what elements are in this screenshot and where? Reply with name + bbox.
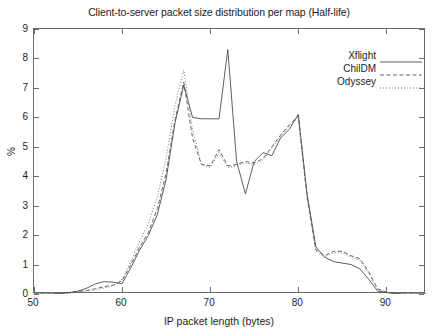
legend-item-xflight[interactable]: Xflight — [314, 49, 422, 62]
y-tick-label: 7 — [8, 81, 28, 92]
x-axis-title: IP packet length (bytes) — [0, 315, 438, 327]
x-tick-label: 60 — [106, 297, 136, 308]
x-tick-mark — [34, 287, 35, 292]
x-tick-mark — [122, 287, 123, 292]
y-tick-mark — [34, 117, 39, 118]
y-tick-mark — [34, 147, 39, 148]
legend-swatch-dotted — [380, 78, 422, 86]
y-tick-mark — [34, 58, 39, 59]
y-tick-mark — [419, 235, 424, 236]
x-tick-mark — [34, 29, 35, 34]
x-tick-mark — [386, 29, 387, 34]
x-tick-mark — [386, 287, 387, 292]
x-tick-label: 90 — [370, 297, 400, 308]
series-line-childm — [34, 82, 426, 294]
y-tick-label: 5 — [8, 140, 28, 151]
legend-label: Xflight — [348, 50, 376, 61]
x-tick-mark — [298, 287, 299, 292]
y-tick-label: 6 — [8, 111, 28, 122]
x-tick-mark — [210, 287, 211, 292]
y-tick-label: 9 — [8, 23, 28, 34]
legend-item-childm[interactable]: ChilDM — [314, 62, 422, 75]
y-tick-mark — [419, 117, 424, 118]
y-tick-mark — [419, 206, 424, 207]
y-tick-mark — [419, 294, 424, 295]
x-tick-label: 50 — [18, 297, 48, 308]
legend-label: ChilDM — [343, 63, 376, 74]
legend-swatch-solid — [380, 52, 422, 60]
chart-figure: Client-to-server packet size distributio… — [0, 0, 438, 336]
y-tick-mark — [34, 235, 39, 236]
y-tick-mark — [419, 176, 424, 177]
series-line-odyssey — [34, 70, 426, 294]
y-tick-mark — [34, 265, 39, 266]
legend-label: Odyssey — [337, 76, 376, 87]
y-tick-label: 2 — [8, 229, 28, 240]
chart-legend: XflightChilDMOdyssey — [314, 49, 422, 88]
y-tick-mark — [34, 176, 39, 177]
x-tick-mark — [210, 29, 211, 34]
y-tick-mark — [419, 147, 424, 148]
chart-title: Client-to-server packet size distributio… — [0, 6, 438, 18]
y-tick-mark — [34, 206, 39, 207]
legend-swatch-dashed — [380, 65, 422, 73]
y-tick-label: 3 — [8, 199, 28, 210]
y-tick-label: 8 — [8, 52, 28, 63]
x-tick-mark — [122, 29, 123, 34]
y-tick-mark — [34, 294, 39, 295]
x-tick-label: 70 — [194, 297, 224, 308]
x-tick-mark — [298, 29, 299, 34]
x-tick-label: 80 — [282, 297, 312, 308]
y-tick-mark — [419, 265, 424, 266]
y-tick-mark — [34, 88, 39, 89]
y-tick-label: 1 — [8, 258, 28, 269]
y-tick-mark — [419, 29, 424, 30]
legend-item-odyssey[interactable]: Odyssey — [314, 75, 422, 88]
y-tick-label: 4 — [8, 170, 28, 181]
